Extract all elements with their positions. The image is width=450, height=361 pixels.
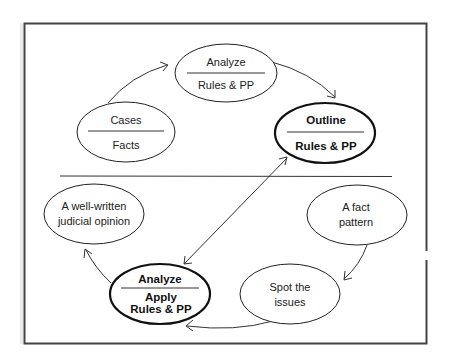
node-analyze-rules: Analyze Rules & PP	[175, 44, 277, 102]
arrow-analyze-to-opinion	[84, 249, 111, 283]
node-line1: A fact	[342, 201, 370, 213]
arrow-outline-analyze-bidirectional	[184, 157, 287, 264]
node-top-label: Analyze	[206, 56, 245, 68]
node-top-label: Cases	[110, 114, 142, 126]
diagram-canvas: Analyze Rules & PP Cases Facts Outline R…	[0, 0, 450, 361]
node-analyze-apply: Analyze Apply Rules & PP	[110, 264, 210, 324]
arrow-fact-to-spot	[344, 245, 367, 280]
section-divider	[60, 176, 392, 177]
node-spot-issues: Spot the issues	[240, 264, 340, 324]
arrow-analyze-to-outline	[272, 62, 335, 98]
node-bottom-label: Rules & PP	[198, 79, 254, 91]
node-judicial-opinion: A well-written judicial opinion	[44, 184, 144, 244]
arrow-spot-to-analyze	[186, 320, 273, 331]
node-top-label: Outline	[306, 114, 346, 126]
node-ellipse	[77, 102, 175, 162]
node-bottom-label-2: Rules & PP	[130, 303, 192, 315]
frame-scan-gap	[425, 251, 429, 260]
node-fact-pattern: A fact pattern	[307, 185, 407, 245]
node-bottom-label: Rules & PP	[295, 140, 357, 152]
node-bottom-label: Facts	[113, 139, 140, 151]
arrow-cases-to-analyze	[108, 62, 168, 103]
node-line1: A well-written	[62, 200, 127, 212]
frame-shadow-left	[20, 23, 23, 344]
node-ellipse	[307, 185, 407, 245]
node-outline-rules: Outline Rules & PP	[275, 103, 375, 163]
node-line2: pattern	[339, 216, 373, 228]
node-line2: judicial opinion	[57, 215, 130, 227]
node-line2: issues	[274, 296, 306, 308]
node-top-label: Analyze	[138, 273, 181, 285]
node-ellipse	[240, 264, 340, 324]
node-ellipse	[44, 184, 144, 244]
node-ellipse	[275, 103, 375, 163]
node-bottom-label-1: Apply	[145, 291, 178, 303]
node-cases-facts: Cases Facts	[77, 102, 175, 162]
node-line1: Spot the	[270, 281, 311, 293]
